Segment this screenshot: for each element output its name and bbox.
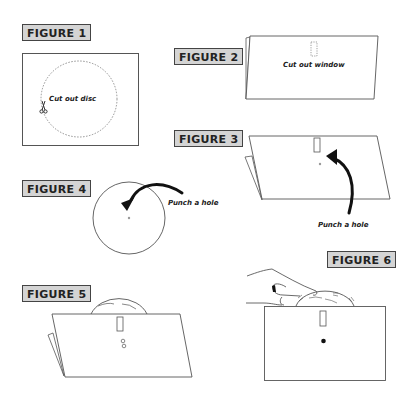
figure-5-drawing <box>48 299 192 377</box>
figure-4-caption: Punch a hole <box>168 199 219 207</box>
window-cutout <box>314 138 320 152</box>
figure-2-caption: Cut out window <box>283 61 345 69</box>
hole-mark <box>319 163 321 165</box>
figure-6-drawing <box>246 269 386 381</box>
disc-behind-card <box>296 291 354 306</box>
window-cutout <box>320 311 326 326</box>
figure-4-label: FIGURE 4 <box>22 180 91 197</box>
figure-2-label: FIGURE 2 <box>174 48 243 65</box>
figure-5-label: FIGURE 5 <box>22 285 91 302</box>
fastener-dot <box>321 339 326 344</box>
fingernail <box>272 285 276 292</box>
figure-6-label: FIGURE 6 <box>327 251 396 268</box>
figure-3-label: FIGURE 3 <box>174 130 243 147</box>
window-cutout <box>117 317 123 331</box>
figure-1-caption: Cut out disc <box>49 95 96 103</box>
hole-mark <box>128 217 130 219</box>
figure-4-drawing <box>93 182 182 254</box>
disc-behind-card <box>91 299 147 314</box>
figure-3-caption: Punch a hole <box>318 221 369 229</box>
figure-3-drawing <box>245 136 390 213</box>
figure-1-label: FIGURE 1 <box>22 24 91 41</box>
